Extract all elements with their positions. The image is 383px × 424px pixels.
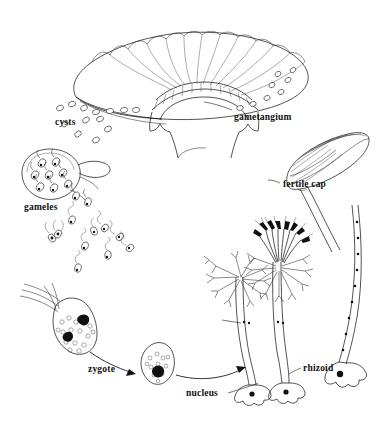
gametangium-cyst bbox=[22, 149, 110, 207]
lifecycle-drawing bbox=[0, 0, 383, 424]
zygote-cell bbox=[141, 343, 174, 385]
figure-canvas: gametangium cysts gameles fertile cap zy… bbox=[0, 0, 383, 424]
label-gametangium: gametangium bbox=[234, 112, 292, 122]
free-gametes bbox=[45, 201, 135, 273]
label-zygote: zygote bbox=[88, 364, 115, 374]
label-cysts: cysts bbox=[55, 117, 76, 127]
young-thallus-left bbox=[204, 251, 271, 405]
gametangium-cap bbox=[74, 31, 308, 158]
label-fertile-cap: fertile cap bbox=[283, 179, 326, 189]
germination-arrow bbox=[176, 366, 246, 379]
fusing-gametes bbox=[45, 220, 63, 243]
label-nucleus: nucleus bbox=[186, 388, 218, 398]
label-rhizoid: rhizoid bbox=[303, 363, 333, 373]
zygote-formation bbox=[20, 283, 97, 354]
label-gameles: gameles bbox=[24, 202, 58, 212]
